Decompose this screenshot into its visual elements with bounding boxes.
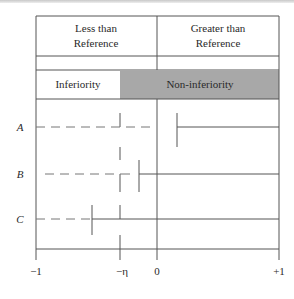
row-label-c: C [16,213,24,225]
header-right-line1: Greater than [191,22,246,34]
header-right-line2: Reference [196,37,241,49]
non-inferiority-label: Non-inferiority [166,78,234,90]
row-label-b: B [17,168,24,180]
row-label-a: A [16,121,24,133]
axis-tick-pos1: +1 [273,265,285,277]
header-left-line2: Reference [74,37,119,49]
axis-tick-neg-eta: −η [116,265,128,277]
axis-tick-neg1: −1 [30,265,42,277]
row-b-interval [45,160,279,192]
header-left-line1: Less than [75,22,117,34]
non-inferiority-diagram: A B C Less than Reference Greater than R… [0,0,294,299]
inferiority-label: Inferiority [55,78,101,90]
axis-tick-zero: 0 [154,265,160,277]
